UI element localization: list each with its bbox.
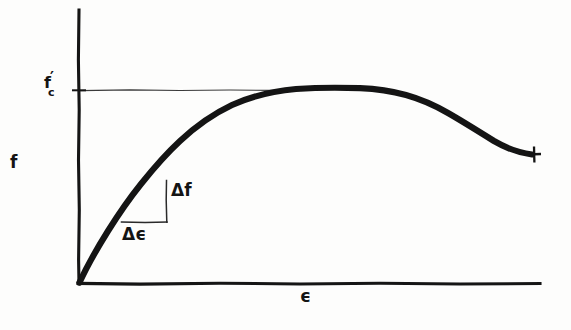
figure-canvas: f ϵ f′c Δf Δϵ (0, 0, 571, 330)
delta-epsilon-label: Δϵ (122, 226, 146, 243)
plot-svg (0, 0, 571, 330)
x-axis-label: ϵ (300, 288, 311, 305)
stress-strain-curve (80, 88, 533, 283)
peak-stress-label-prime: ′ (50, 69, 54, 87)
peak-stress-label-subscript: c (48, 86, 55, 99)
peak-stress-label: f′c (44, 70, 61, 95)
delta-f-label: Δf (171, 182, 192, 199)
curve-end-cross-marker (527, 147, 541, 163)
y-axis-label: f (10, 154, 17, 171)
y-axis-line (78, 10, 79, 284)
delta-epsilon-leg (122, 222, 168, 223)
delta-f-leg (166, 181, 167, 223)
x-axis-line (78, 283, 540, 284)
